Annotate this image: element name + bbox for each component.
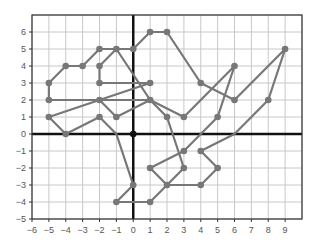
x-tick-label: 0 bbox=[131, 225, 136, 235]
data-point bbox=[181, 148, 188, 155]
data-point bbox=[46, 114, 53, 121]
x-tick-label: 4 bbox=[198, 225, 203, 235]
y-tick-label: 2 bbox=[21, 95, 26, 105]
data-point bbox=[164, 114, 171, 121]
coordinate-plane-chart: −6−5−4−3−2−10123456789 −5−4−3−2−10123456 bbox=[0, 0, 316, 245]
x-tick-label: 2 bbox=[164, 225, 169, 235]
y-tick-label: 1 bbox=[21, 112, 26, 122]
data-point bbox=[282, 46, 289, 53]
data-point bbox=[181, 165, 188, 172]
x-tick-label: 5 bbox=[215, 225, 220, 235]
data-point bbox=[231, 97, 238, 104]
y-tick-label: 6 bbox=[21, 27, 26, 37]
data-point bbox=[96, 63, 103, 70]
data-point bbox=[96, 114, 103, 121]
y-tick-label: −1 bbox=[16, 146, 26, 156]
x-tick-label: 1 bbox=[148, 225, 153, 235]
x-tick-label: −6 bbox=[27, 225, 37, 235]
data-point bbox=[96, 46, 103, 53]
data-point bbox=[113, 46, 120, 53]
data-point bbox=[147, 199, 154, 206]
x-tick-label: −1 bbox=[111, 225, 121, 235]
x-axis-tick-labels: −6−5−4−3−2−10123456789 bbox=[27, 219, 288, 235]
data-point bbox=[46, 97, 53, 104]
data-point bbox=[130, 182, 137, 189]
x-tick-label: 3 bbox=[181, 225, 186, 235]
data-point bbox=[113, 199, 120, 206]
data-point bbox=[46, 80, 53, 87]
data-point bbox=[265, 97, 272, 104]
data-point bbox=[231, 63, 238, 70]
x-tick-label: −4 bbox=[61, 225, 71, 235]
data-point bbox=[197, 148, 204, 155]
data-point bbox=[147, 29, 154, 36]
y-tick-label: −3 bbox=[16, 180, 26, 190]
origin-point bbox=[130, 131, 137, 138]
data-point bbox=[147, 97, 154, 104]
y-tick-label: 0 bbox=[21, 129, 26, 139]
x-tick-label: −5 bbox=[44, 225, 54, 235]
y-tick-label: −5 bbox=[16, 214, 26, 224]
data-point bbox=[147, 80, 154, 87]
x-tick-label: 9 bbox=[283, 225, 288, 235]
data-point bbox=[164, 182, 171, 189]
y-axis-tick-labels: −5−4−3−2−10123456 bbox=[16, 27, 32, 224]
data-point bbox=[62, 131, 69, 138]
data-point bbox=[197, 182, 204, 189]
y-tick-label: −4 bbox=[16, 197, 26, 207]
y-tick-label: 3 bbox=[21, 78, 26, 88]
data-point bbox=[130, 46, 137, 53]
x-tick-label: −3 bbox=[77, 225, 87, 235]
y-tick-label: −2 bbox=[16, 163, 26, 173]
data-point bbox=[147, 165, 154, 172]
data-point bbox=[96, 97, 103, 104]
y-tick-label: 4 bbox=[21, 61, 26, 71]
data-point bbox=[197, 80, 204, 87]
x-tick-label: −2 bbox=[94, 225, 104, 235]
data-point bbox=[79, 63, 86, 70]
data-point bbox=[113, 114, 120, 121]
x-tick-label: 7 bbox=[249, 225, 254, 235]
x-tick-label: 6 bbox=[232, 225, 237, 235]
x-tick-label: 8 bbox=[266, 225, 271, 235]
data-point bbox=[214, 165, 221, 172]
path-segment bbox=[150, 66, 234, 185]
data-point bbox=[96, 80, 103, 87]
data-point bbox=[164, 29, 171, 36]
data-point bbox=[214, 114, 221, 121]
data-point bbox=[62, 63, 69, 70]
data-point bbox=[181, 114, 188, 121]
y-tick-label: 5 bbox=[21, 44, 26, 54]
